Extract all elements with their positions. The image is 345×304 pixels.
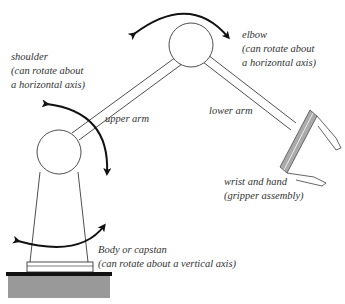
body-rotation-arrow xyxy=(18,226,104,247)
upper-arm xyxy=(72,57,182,140)
lower-arm-label: lower arm xyxy=(209,104,252,118)
body-label: Body or capstan (can rotate about a vert… xyxy=(98,243,236,271)
elbow-title: elbow xyxy=(242,28,316,42)
shoulder-note: (can rotate about xyxy=(11,64,85,78)
body-note: (can rotate about a vertical axis) xyxy=(98,257,236,271)
upper-arm-label: upper arm xyxy=(105,112,149,126)
elbow-note: (can rotate about xyxy=(242,42,316,56)
elbow-label: elbow (can rotate about a horizontal axi… xyxy=(242,28,316,70)
shoulder-title: shoulder xyxy=(11,50,85,64)
shoulder-note2: a horizontal axis) xyxy=(11,78,85,92)
base-plate xyxy=(6,272,112,298)
elbow-note2: a horizontal axis) xyxy=(242,56,316,70)
capstan-body xyxy=(27,172,93,272)
elbow-joint xyxy=(169,23,213,67)
wrist-title: wrist and hand xyxy=(224,175,304,189)
body-title: Body or capstan xyxy=(98,243,236,257)
wrist-label: wrist and hand (gripper assembly) xyxy=(224,175,304,203)
wrist-note: (gripper assembly) xyxy=(224,189,304,203)
shoulder-joint xyxy=(37,130,81,174)
robot-arm-diagram: elbow (can rotate about a horizontal axi… xyxy=(0,0,345,304)
shoulder-label: shoulder (can rotate about a horizontal … xyxy=(11,50,85,92)
